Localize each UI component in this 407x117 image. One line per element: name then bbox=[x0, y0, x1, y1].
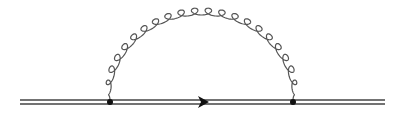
feynman-diagram bbox=[0, 0, 407, 117]
vertex-right bbox=[290, 99, 296, 105]
vertex-left bbox=[107, 99, 113, 105]
gluon-propagator bbox=[106, 8, 297, 101]
arrow-icon bbox=[198, 96, 209, 108]
